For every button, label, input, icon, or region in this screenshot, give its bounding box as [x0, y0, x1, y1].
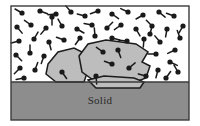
molecule-head — [104, 25, 109, 30]
molecule-head — [109, 11, 114, 16]
molecule-head — [100, 49, 105, 54]
molecule-head — [28, 22, 33, 27]
molecule-head — [118, 22, 123, 27]
molecule-head — [19, 10, 24, 15]
molecule-head — [143, 73, 148, 78]
molecule-head — [133, 26, 138, 31]
molecule-head — [43, 25, 48, 30]
molecule-head — [68, 9, 73, 14]
molecule-head — [126, 65, 131, 70]
figure-container: Solid — [0, 0, 200, 126]
molecule-head — [140, 12, 145, 17]
molecule-head — [171, 13, 176, 18]
molecule-head — [37, 8, 42, 13]
molecule-head — [27, 50, 32, 55]
molecule-head — [172, 47, 177, 52]
molecule-head — [32, 67, 37, 72]
molecule-head — [167, 59, 172, 64]
molecule-head — [164, 26, 169, 31]
molecule-head — [77, 35, 82, 40]
molecule-head — [46, 39, 51, 44]
molecule-head — [115, 47, 120, 52]
solid-label: Solid — [88, 94, 113, 106]
molecule-head — [147, 31, 152, 36]
molecule-head — [153, 51, 158, 56]
molecule-head — [109, 61, 114, 66]
molecule-head — [93, 73, 98, 78]
molecule-head — [49, 14, 54, 19]
molecule-head — [31, 36, 36, 41]
molecule-head — [155, 67, 160, 72]
molecule-head — [124, 38, 129, 43]
molecule-head — [59, 23, 64, 28]
molecule-head — [92, 33, 97, 38]
molecule-head — [177, 35, 182, 40]
molecule-head — [125, 9, 130, 14]
molecule-head — [82, 13, 87, 18]
molecule-head — [17, 65, 22, 70]
molecule-head — [89, 22, 94, 27]
molecule-head — [157, 39, 162, 44]
molecule-head — [14, 24, 19, 29]
molecule-head — [163, 75, 168, 80]
molecule-head — [180, 23, 185, 28]
molecule-head — [109, 35, 114, 40]
molecule-head — [41, 53, 46, 58]
molecule-head — [74, 26, 79, 31]
molecule-head — [175, 69, 180, 74]
molecule-head — [59, 69, 64, 74]
molecule-head — [141, 36, 146, 41]
molecule-head — [13, 52, 18, 57]
liquid-solid-schematic: Solid — [0, 0, 200, 126]
molecule-head — [61, 37, 66, 42]
molecule-head — [95, 8, 100, 13]
molecule-head — [156, 9, 161, 14]
molecule-head — [16, 38, 21, 43]
molecule-head — [21, 75, 26, 80]
